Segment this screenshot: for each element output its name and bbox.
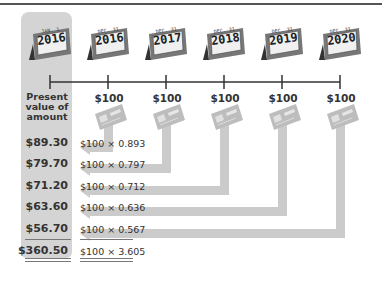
present-value-header: Present value of amount [22, 92, 72, 122]
calendar-2020-text: DEC. 31 2020 [325, 25, 357, 47]
total-rule-top [80, 239, 133, 240]
total-double-rule [80, 261, 133, 262]
payment-label: $100 [152, 92, 182, 104]
header-line: amount [22, 112, 72, 122]
present-value-amount: $71.20 [0, 179, 68, 192]
total-double-rule [25, 258, 71, 259]
calendar-2018-text: DEC. 31 2018 [209, 25, 241, 47]
calendar-start-text: JAN. 1 2016 [35, 25, 67, 47]
calendar-2019-text: DEC. 31 2019 [267, 25, 299, 47]
timeline [50, 75, 340, 89]
pv-formula: $100 × 0.567 [80, 224, 145, 235]
present-value-amount: $63.60 [0, 200, 68, 213]
payment-label: $100 [268, 92, 298, 104]
pv-formula: $100 × 0.636 [80, 202, 145, 213]
total-formula: $100 × 3.605 [80, 246, 145, 257]
present-value-amount: $79.70 [0, 157, 68, 170]
payment-label: $100 [326, 92, 356, 104]
present-value-amount: $56.70 [0, 222, 68, 235]
calendar-2016-text: DEC. 31 2016 [93, 25, 125, 47]
total-double-rule [25, 261, 71, 262]
total-present-value: $360.50 [0, 244, 68, 257]
pv-formula: $100 × 0.893 [80, 138, 145, 149]
total-double-rule [80, 258, 133, 259]
arrow-5-vertical [336, 124, 345, 238]
pv-formula: $100 × 0.797 [80, 159, 145, 170]
payment-label: $100 [210, 92, 240, 104]
arrow-3-vertical [220, 124, 229, 195]
total-rule-top [25, 239, 71, 240]
present-value-amount: $89.30 [0, 136, 68, 149]
payment-label: $100 [94, 92, 124, 104]
pv-formula: $100 × 0.712 [80, 181, 145, 192]
arrow-4-vertical [278, 124, 287, 216]
calendar-2017-text: DEC. 31 2017 [151, 25, 183, 47]
